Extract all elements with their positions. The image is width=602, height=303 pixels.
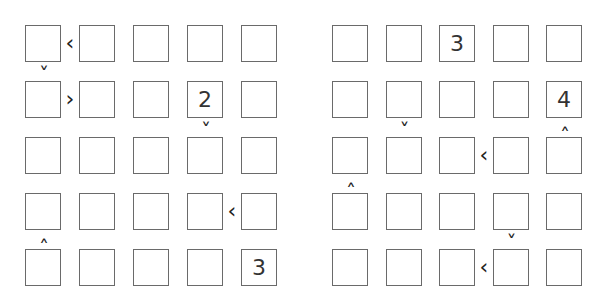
grid-cell[interactable] [332,249,368,286]
grid-cell[interactable] [79,81,115,118]
chevron-down-icon: ˅ [199,120,213,140]
grid-cell[interactable] [187,193,223,230]
grid-cell[interactable] [133,25,169,62]
grid-cell[interactable] [241,25,277,62]
grid-cell[interactable] [546,249,582,286]
grid-cell[interactable] [493,137,529,174]
grid-cell[interactable] [546,25,582,62]
less-than-icon: ‹ [225,200,239,222]
grid-cell[interactable] [386,137,422,174]
grid-cell[interactable] [386,25,422,62]
less-than-icon: ‹ [63,32,77,54]
grid-cell[interactable] [332,137,368,174]
grid-cell[interactable] [386,193,422,230]
chevron-up-icon: ˄ [344,181,358,201]
grid-cell[interactable] [133,193,169,230]
grid-cell[interactable] [493,81,529,118]
chevron-down-icon: ˅ [505,232,519,252]
greater-than-icon: › [63,88,77,110]
grid-cell[interactable] [439,193,475,230]
grid-cell[interactable] [493,193,529,230]
grid-cell[interactable] [439,137,475,174]
chevron-up-icon: ˄ [37,237,51,257]
grid-cell[interactable] [133,137,169,174]
chevron-down-icon: ˅ [398,120,412,140]
grid-cell[interactable] [546,193,582,230]
grid-cell[interactable] [241,137,277,174]
grid-cell[interactable] [133,81,169,118]
less-than-icon: ‹ [477,144,491,166]
grid-cell[interactable]: 4 [546,81,582,118]
grid-cell[interactable] [493,249,529,286]
grid-cell[interactable] [386,249,422,286]
grid-cell[interactable]: 3 [439,25,475,62]
grid-cell[interactable] [133,249,169,286]
chevron-up-icon: ˄ [558,125,572,145]
grid-cell[interactable] [187,25,223,62]
grid-cell[interactable] [25,137,61,174]
grid-cell[interactable] [439,81,475,118]
grid-cell[interactable]: 2 [187,81,223,118]
grid-cell[interactable] [241,193,277,230]
grid-cell[interactable] [25,25,61,62]
grid-cell[interactable]: 3 [241,249,277,286]
grid-cell[interactable] [187,137,223,174]
grid-cell[interactable] [79,193,115,230]
grid-cell[interactable] [241,81,277,118]
less-than-icon: ‹ [477,256,491,278]
grid-cell[interactable] [25,81,61,118]
chevron-down-icon: ˅ [37,64,51,84]
grid-cell[interactable] [79,25,115,62]
grid-cell[interactable] [25,193,61,230]
grid-cell[interactable] [187,249,223,286]
grid-cell[interactable] [79,137,115,174]
grid-cell[interactable] [386,81,422,118]
grid-cell[interactable] [332,25,368,62]
grid-cell[interactable] [79,249,115,286]
grid-cell[interactable] [332,81,368,118]
grid-cell[interactable] [493,25,529,62]
grid-cell[interactable] [439,249,475,286]
